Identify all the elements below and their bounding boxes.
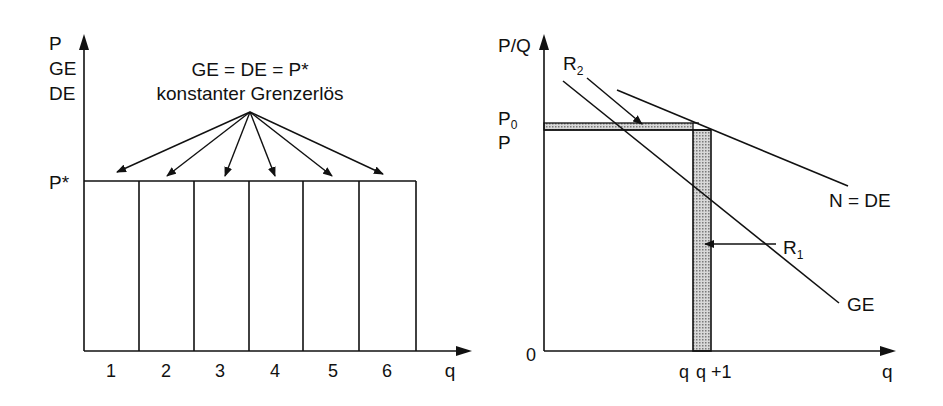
left-x-axis-arrowhead-icon — [456, 346, 472, 356]
x-tick-3: 3 — [215, 361, 225, 381]
annotation-subtitle: konstanter Grenzerlös — [157, 83, 344, 104]
origin-label: 0 — [526, 345, 536, 365]
x-tick-6: 6 — [382, 361, 392, 381]
r1-sub: 1 — [797, 248, 804, 262]
unit-revenue-bars — [84, 181, 416, 351]
r2-sub: 2 — [577, 64, 584, 78]
demand-curve-n-de — [617, 90, 848, 186]
right-chart: P/Q R2 P0 P N = DE R1 GE 0 q q +1 q — [498, 34, 896, 382]
right-x-axis-arrowhead-icon — [880, 346, 896, 356]
annotation-arrows — [117, 112, 383, 176]
x-tick-q: q — [679, 362, 689, 382]
p-label: P — [498, 132, 511, 153]
right-x-axis-label: q — [882, 361, 893, 382]
right-y-axis-label: P/Q — [498, 35, 531, 56]
diagram-canvas: P GE DE P* GE = DE = P* konstanter Grenz… — [0, 0, 943, 406]
ge-label: GE — [847, 294, 874, 315]
x-tick-5: 5 — [328, 361, 338, 381]
r2-main: R — [563, 53, 577, 74]
right-y-axis-arrowhead-icon — [539, 34, 549, 50]
left-y-label-de: DE — [49, 83, 75, 104]
shaded-region-r1 — [693, 130, 711, 351]
left-y-label-p: P — [49, 33, 62, 54]
left-y-label-ge: GE — [49, 58, 76, 79]
price-level-label: P* — [49, 172, 70, 193]
p0-main: P — [498, 108, 511, 129]
x-tick-q-plus-1: q +1 — [696, 362, 732, 382]
r2-pointer-arrow — [587, 78, 642, 124]
x-tick-2: 2 — [161, 361, 171, 381]
r2-label: R2 — [563, 53, 584, 78]
r1-label: R1 — [783, 237, 804, 262]
p0-label: P0 — [498, 108, 518, 132]
annotation-title: GE = DE = P* — [191, 59, 309, 80]
left-y-axis-arrowhead-icon — [79, 34, 89, 50]
p0-sub: 0 — [511, 118, 518, 132]
demand-label: N = DE — [829, 190, 891, 211]
left-x-axis-label: q — [445, 360, 456, 381]
x-tick-1: 1 — [106, 361, 116, 381]
r1-main: R — [783, 237, 797, 258]
x-tick-4: 4 — [270, 361, 280, 381]
left-chart: P GE DE P* GE = DE = P* konstanter Grenz… — [49, 33, 472, 381]
